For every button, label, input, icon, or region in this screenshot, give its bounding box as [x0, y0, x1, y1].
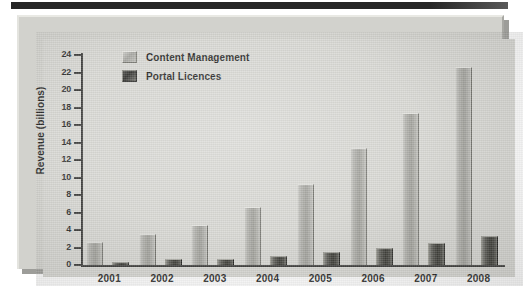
x-axis-label-2002: 2002 — [136, 273, 188, 284]
bar-content-management-2001 — [86, 242, 103, 265]
bar-portal-licences-2005 — [323, 252, 340, 265]
bar-content-management-2005 — [297, 184, 314, 265]
bars-layer: 20012002200320042005200620072008 — [19, 17, 502, 269]
bar-content-management-2003 — [191, 225, 208, 265]
bar-content-management-2004 — [244, 207, 261, 265]
x-axis-label-2006: 2006 — [347, 273, 399, 284]
bar-content-management-2007 — [402, 113, 419, 265]
x-axis-label-2003: 2003 — [189, 273, 241, 284]
bar-portal-licences-2006 — [376, 248, 393, 265]
x-axis-label-2008: 2008 — [453, 273, 505, 284]
x-axis-label-2001: 2001 — [83, 273, 135, 284]
bar-portal-licences-2002 — [165, 259, 182, 265]
x-axis-label-2005: 2005 — [294, 273, 346, 284]
bar-portal-licences-2008 — [481, 236, 498, 265]
chart-frame: Revenue (billions) 024681012141618202224… — [17, 15, 504, 269]
bar-portal-licences-2003 — [217, 259, 234, 265]
x-axis-label-2004: 2004 — [242, 273, 294, 284]
bar-content-management-2002 — [139, 234, 156, 265]
x-axis-label-2007: 2007 — [400, 273, 452, 284]
bar-portal-licences-2001 — [112, 262, 129, 266]
top-dark-strip-fade — [430, 2, 508, 9]
bar-content-management-2006 — [350, 148, 367, 265]
bar-portal-licences-2007 — [428, 243, 445, 265]
bar-portal-licences-2004 — [270, 256, 287, 265]
bar-content-management-2008 — [455, 67, 472, 265]
